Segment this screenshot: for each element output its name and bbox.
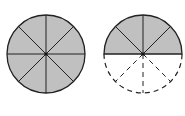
whole-circle bbox=[7, 15, 85, 93]
center-dot bbox=[44, 52, 47, 55]
fraction-diagram bbox=[0, 0, 185, 116]
half-circle bbox=[104, 15, 182, 93]
center-dot bbox=[141, 52, 144, 55]
dashed-divider bbox=[143, 54, 171, 82]
dashed-divider bbox=[115, 54, 143, 82]
